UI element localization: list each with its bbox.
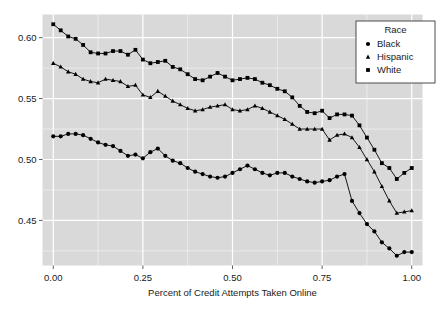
data-point	[313, 111, 317, 115]
legend-item-label: Hispanic	[377, 51, 414, 62]
data-point	[320, 109, 324, 113]
data-point	[305, 179, 309, 183]
data-point	[126, 154, 130, 158]
line-chart: 0.000.250.500.751.000.450.500.550.60Perc…	[0, 0, 441, 314]
data-point	[275, 171, 279, 175]
legend-marker-square-icon	[366, 68, 370, 72]
x-axis-tick-label: 0.50	[223, 272, 242, 283]
data-point	[141, 58, 145, 62]
data-point	[238, 167, 242, 171]
data-point	[186, 166, 190, 170]
data-point	[81, 43, 85, 47]
data-point	[350, 114, 354, 118]
data-point	[327, 178, 331, 182]
data-point	[156, 60, 160, 64]
x-axis-tick-label: 0.75	[313, 272, 332, 283]
data-point	[283, 171, 287, 175]
legend-marker-circle-icon	[366, 42, 370, 46]
y-axis-tick-label: 0.60	[18, 32, 37, 43]
data-point	[238, 77, 242, 81]
data-point	[208, 174, 212, 178]
data-point	[81, 133, 85, 137]
data-point	[171, 65, 175, 69]
data-point	[395, 254, 399, 258]
chart-container: 0.000.250.500.751.000.450.500.550.60Perc…	[0, 0, 441, 314]
data-point	[111, 49, 115, 53]
data-point	[119, 49, 123, 53]
data-point	[290, 95, 294, 99]
data-point	[342, 172, 346, 176]
x-axis-title: Percent of Credit Attempts Taken Online	[148, 287, 317, 298]
data-point	[208, 75, 212, 79]
data-point	[387, 166, 391, 170]
data-point	[335, 174, 339, 178]
data-point	[253, 167, 257, 171]
data-point	[201, 78, 205, 82]
data-point	[104, 52, 108, 56]
x-axis-tick-label: 0.25	[134, 272, 153, 283]
data-point	[231, 78, 235, 82]
data-point	[350, 199, 354, 203]
data-point	[193, 170, 197, 174]
data-point	[223, 75, 227, 79]
data-point	[275, 87, 279, 91]
data-point	[66, 132, 70, 136]
data-point	[245, 163, 249, 167]
data-point	[96, 52, 100, 56]
data-point	[253, 77, 257, 81]
data-point	[410, 250, 414, 254]
data-point	[201, 172, 205, 176]
data-point	[358, 123, 362, 127]
data-point	[118, 149, 122, 153]
data-point	[223, 174, 227, 178]
data-point	[51, 22, 55, 26]
data-point	[313, 181, 317, 185]
data-point	[89, 137, 93, 141]
data-point	[59, 28, 63, 32]
data-point	[66, 35, 70, 39]
legend: RaceBlackHispanicWhite	[356, 21, 435, 83]
data-point	[103, 143, 107, 147]
data-point	[171, 159, 175, 163]
data-point	[126, 53, 130, 57]
legend-item-label: White	[377, 64, 401, 75]
data-point	[290, 174, 294, 178]
data-point	[51, 134, 55, 138]
data-point	[74, 132, 78, 136]
data-point	[148, 61, 152, 65]
data-point	[395, 177, 399, 181]
data-point	[193, 77, 197, 81]
data-point	[298, 177, 302, 181]
data-point	[260, 171, 264, 175]
data-point	[387, 246, 391, 250]
legend-title: Race	[384, 24, 406, 35]
data-point	[163, 59, 167, 63]
y-axis-tick-label: 0.45	[18, 215, 37, 226]
y-axis-tick-label: 0.55	[18, 93, 37, 104]
data-point	[230, 171, 234, 175]
data-point	[186, 72, 190, 76]
data-point	[156, 146, 160, 150]
data-point	[59, 134, 63, 138]
data-point	[89, 50, 93, 54]
data-point	[134, 48, 138, 52]
data-point	[246, 76, 250, 80]
data-point	[335, 113, 339, 117]
data-point	[268, 83, 272, 87]
data-point	[372, 148, 376, 152]
data-point	[357, 211, 361, 215]
data-point	[178, 67, 182, 71]
data-point	[305, 110, 309, 114]
data-point	[283, 89, 287, 93]
data-point	[74, 37, 78, 41]
data-point	[298, 104, 302, 108]
data-point	[163, 154, 167, 158]
data-point	[380, 161, 384, 165]
y-axis-tick-label: 0.50	[18, 154, 37, 165]
x-axis-tick-label: 1.00	[402, 272, 421, 283]
data-point	[372, 229, 376, 233]
data-point	[402, 250, 406, 254]
data-point	[260, 81, 264, 85]
data-point	[402, 171, 406, 175]
legend-item-label: Black	[377, 38, 400, 49]
